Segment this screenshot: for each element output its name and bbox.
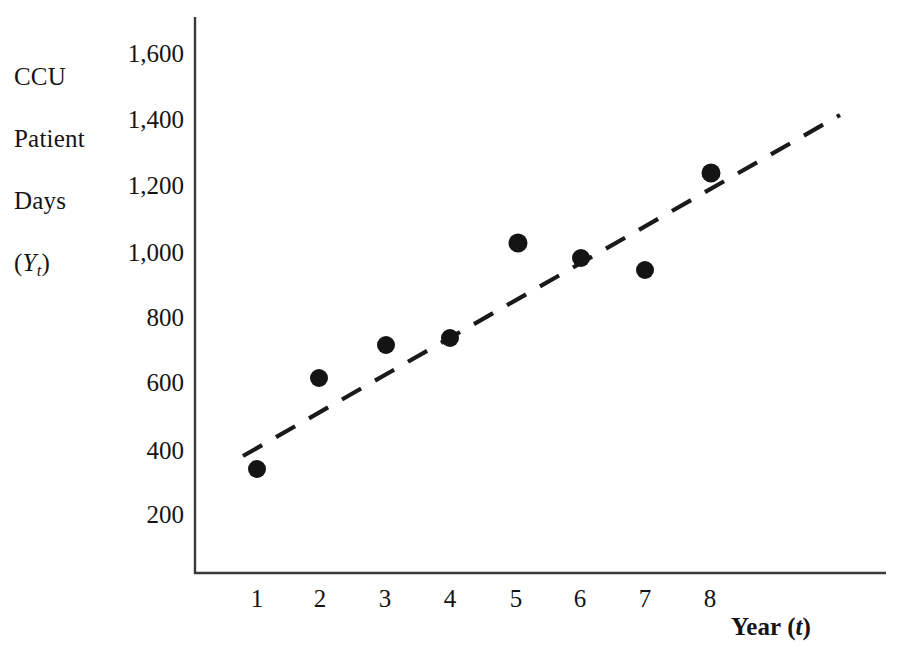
data-point-6 xyxy=(572,249,590,267)
data-point-7 xyxy=(636,261,654,279)
data-point-2 xyxy=(310,369,328,387)
data-point-3 xyxy=(377,336,395,354)
data-point-5 xyxy=(509,234,528,253)
trend-line-dashed xyxy=(243,115,840,456)
data-point-4 xyxy=(441,329,459,347)
data-point-8 xyxy=(702,164,721,183)
scatter-plot-figure: CCU Patient Days (Yt) 1,600 1,400 1,200 … xyxy=(0,0,898,659)
plot-area-svg xyxy=(0,0,898,659)
data-point-1 xyxy=(248,460,266,478)
